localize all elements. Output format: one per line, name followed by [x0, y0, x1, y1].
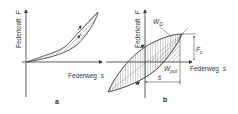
label-s-hat: ŝ: [158, 74, 162, 81]
hysteresis-loop-a: [27, 12, 98, 62]
x-axis-label-a: Federweg s: [68, 72, 105, 80]
y-axis-label-b: Federkraft F: [134, 10, 141, 48]
y-axis-label-a: Federkraft F: [15, 10, 22, 48]
loading-arrow-icon: [78, 26, 81, 30]
peak-extension: [182, 28, 188, 34]
label-fc: Fc: [196, 46, 203, 55]
label-wd: WD: [153, 18, 163, 27]
diagram-b: Fc ŝ WD Wpot Federkraft F Federweg s b: [106, 10, 227, 103]
diagram-canvas: Federkraft F Federweg s a Fc: [0, 0, 238, 114]
wd-leader: [160, 27, 172, 37]
label-wpot: Wpot: [164, 65, 178, 74]
x-axis-label-b: Federweg s: [190, 65, 227, 73]
diagram-a: Federkraft F Federweg s a: [15, 10, 105, 105]
caption-b: b: [163, 96, 167, 103]
caption-a: a: [55, 98, 59, 105]
